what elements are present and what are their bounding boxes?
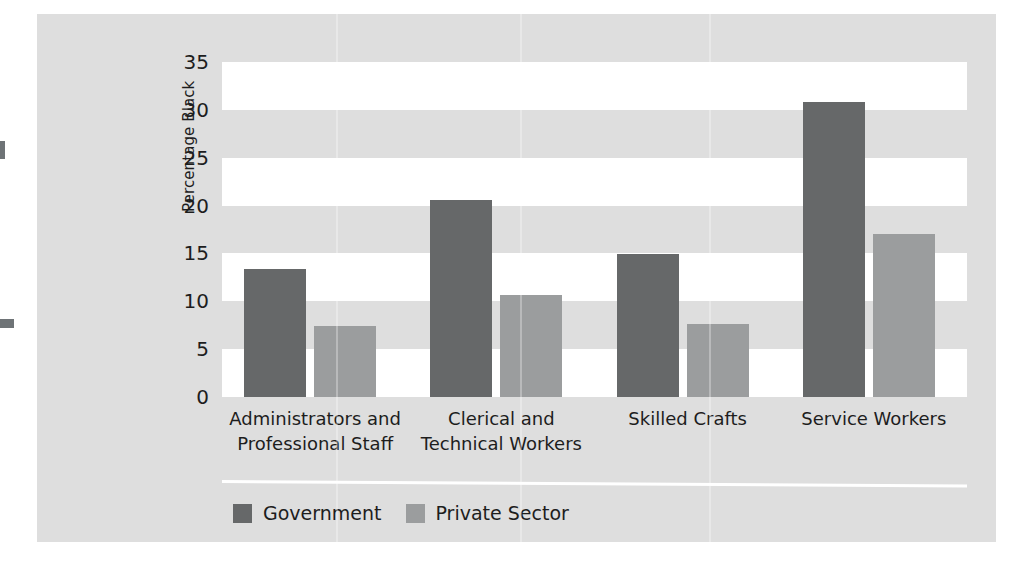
bar-group — [430, 62, 562, 397]
bar-government[interactable] — [244, 269, 306, 397]
page-scan-mark-bottom — [0, 319, 14, 328]
bar-private-sector[interactable] — [314, 326, 376, 397]
x-category-label: Service Workers — [781, 406, 967, 431]
bar-private-sector[interactable] — [500, 295, 562, 397]
bar-government[interactable] — [617, 254, 679, 397]
bar-group — [617, 62, 749, 397]
x-axis-category-labels: Administrators and Professional StaffCle… — [222, 406, 967, 466]
bar-group — [803, 62, 935, 397]
y-tick-label: 15 — [184, 241, 209, 265]
bar-private-sector[interactable] — [687, 324, 749, 397]
y-tick-label: 25 — [184, 146, 209, 170]
bar-private-sector[interactable] — [873, 234, 935, 397]
y-tick-label: 20 — [184, 194, 209, 218]
y-tick-label: 30 — [184, 98, 209, 122]
x-category-label: Administrators and Professional Staff — [222, 406, 408, 456]
bar-government[interactable] — [803, 102, 865, 397]
y-tick-label: 5 — [196, 337, 209, 361]
legend-item-private-sector[interactable]: Private Sector — [406, 502, 569, 524]
legend-swatch-icon — [406, 504, 425, 523]
legend-swatch-icon — [233, 504, 252, 523]
page-scan-mark-top — [0, 141, 5, 159]
chart-figure-panel: Percentage Black 05101520253035 Administ… — [37, 14, 996, 542]
x-category-label: Skilled Crafts — [595, 406, 781, 431]
legend-item-government[interactable]: Government — [233, 502, 382, 524]
bar-group — [244, 62, 376, 397]
y-tick-label: 10 — [184, 289, 209, 313]
y-tick-label: 35 — [184, 50, 209, 74]
chart-legend: GovernmentPrivate Sector — [233, 502, 569, 524]
legend-label: Private Sector — [436, 502, 569, 524]
bar-government[interactable] — [430, 200, 492, 397]
plot-area: Percentage Black 05101520253035 — [222, 62, 967, 397]
x-category-label: Clerical and Technical Workers — [408, 406, 594, 456]
y-tick-label: 0 — [196, 385, 209, 409]
legend-label: Government — [263, 502, 382, 524]
legend-divider-rule — [222, 480, 967, 488]
bars-layer — [222, 62, 967, 397]
